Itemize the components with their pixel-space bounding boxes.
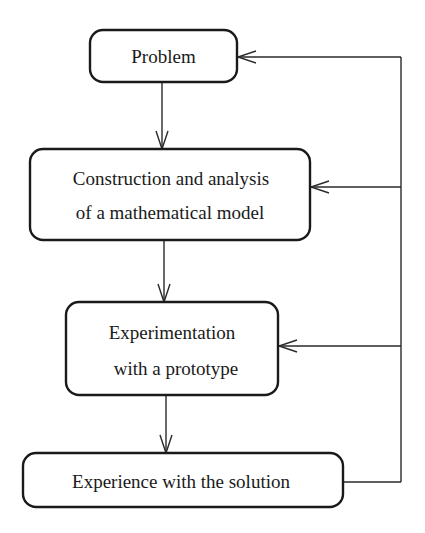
node-prototype-label-line-1: Experimentation [109, 322, 236, 343]
node-prototype-box [66, 302, 278, 395]
node-problem-label: Problem [131, 46, 196, 67]
arrow-model-to-prototype [158, 240, 170, 302]
feedback-arrow-to-model [311, 181, 401, 193]
node-problem: Problem [90, 30, 237, 82]
node-solution: Experience with the solution [23, 453, 343, 507]
node-model: Construction and analysis of a mathemati… [30, 149, 310, 240]
flowchart-diagram: Problem Construction and analysis of a m… [0, 0, 425, 533]
feedback-arrow-to-prototype [279, 340, 401, 352]
node-model-box [30, 149, 310, 240]
arrow-prototype-to-solution [160, 395, 172, 453]
node-model-label-line-2: of a mathematical model [76, 202, 264, 223]
feedback-arrow-to-problem [238, 51, 401, 63]
arrow-problem-to-model [156, 82, 168, 149]
node-prototype: Experimentation with a prototype [66, 302, 278, 395]
node-prototype-label-line-2: with a prototype [114, 358, 239, 379]
node-model-label-line-1: Construction and analysis [73, 168, 269, 189]
node-solution-label: Experience with the solution [72, 471, 290, 492]
